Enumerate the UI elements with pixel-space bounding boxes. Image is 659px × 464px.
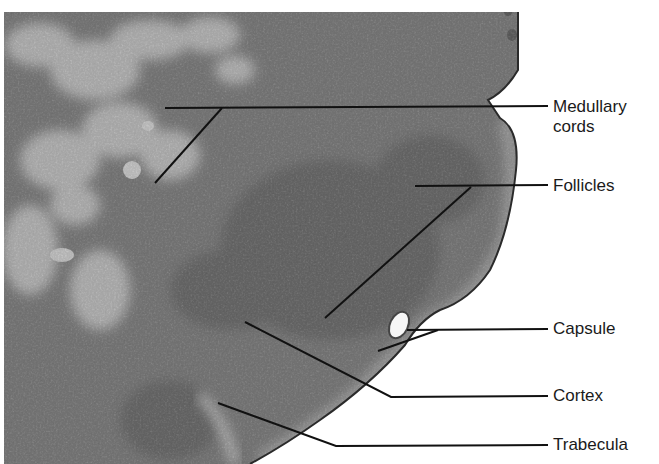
label-medullary-cords-line1: Medullary bbox=[553, 97, 627, 117]
label-capsule-text: Capsule bbox=[553, 319, 615, 339]
label-medullary-cords: Medullary cords bbox=[553, 97, 627, 137]
label-follicles-text: Follicles bbox=[553, 176, 614, 196]
leader-capsule bbox=[407, 329, 548, 330]
label-capsule: Capsule bbox=[553, 319, 615, 339]
label-trabecula: Trabecula bbox=[553, 435, 628, 455]
leader-follicles bbox=[415, 185, 548, 186]
label-trabecula-text: Trabecula bbox=[553, 435, 628, 455]
label-cortex-text: Cortex bbox=[553, 386, 603, 406]
label-follicles: Follicles bbox=[553, 176, 614, 196]
label-medullary-cords-line2: cords bbox=[553, 117, 627, 137]
label-cortex: Cortex bbox=[553, 386, 603, 406]
